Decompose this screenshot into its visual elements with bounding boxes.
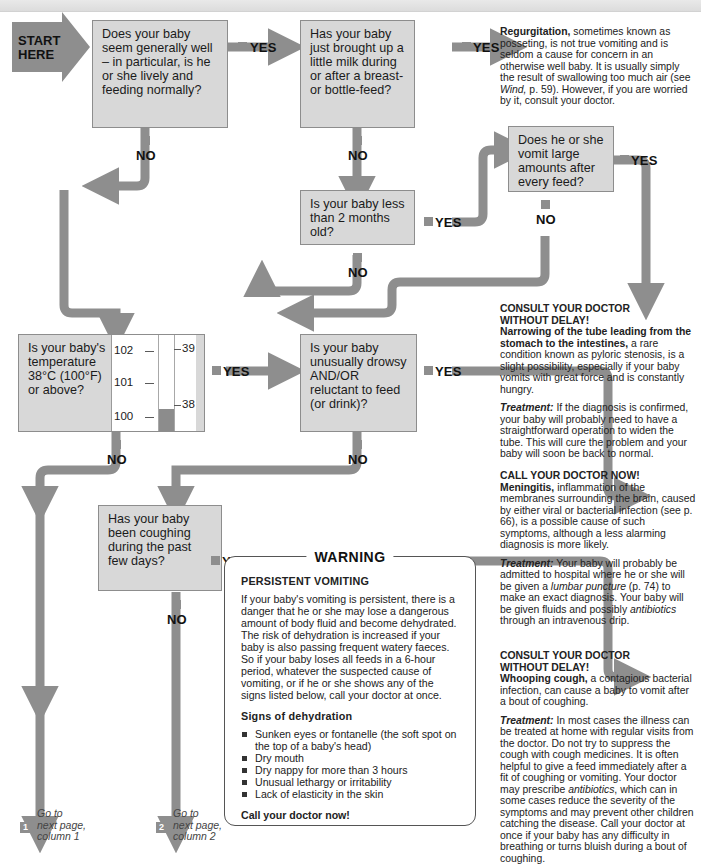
signs-list: Sunken eyes or fontanelle (the soft spot… (241, 728, 461, 800)
goto-next-page-column-2: Go to next page, column 2 (173, 808, 222, 843)
yes-marker-square (620, 155, 629, 164)
list-item: Dry mouth (241, 752, 461, 764)
goto-badge-2: 2 (156, 822, 167, 833)
no-label-q6: NO (348, 452, 368, 467)
list-item: Dry nappy for more than 3 hours (241, 764, 461, 776)
treatment-body-2: , which can in some cases reduce the sev… (500, 784, 693, 864)
yes-label-q5: YES (223, 364, 250, 379)
thermo-f-102: 102 (114, 344, 133, 358)
advice-heading-1: CALL YOUR DOCTOR NOW! (500, 470, 696, 482)
warning-subheading: PERSISTENT VOMITING (241, 575, 461, 587)
question-text: Is your baby's temperature 38°C (100°F) … (28, 341, 105, 397)
treatment-label: Treatment: (500, 402, 554, 413)
no-marker-square (541, 200, 550, 209)
advice-heading-1: CONSULT YOUR DOCTOR (500, 303, 696, 315)
thermometer-mercury (159, 409, 174, 431)
no-marker-square (353, 253, 362, 262)
advice-body-2: p. 59). However, if you are worried by i… (500, 84, 688, 107)
no-label-q2: NO (348, 148, 368, 163)
question-text: Is your baby less than 2 months old? (310, 197, 405, 239)
call-doctor-text: Call your doctor now! (241, 809, 461, 821)
advice-lead: Whooping cough, (500, 673, 588, 684)
advice-regurgitation: Regurgitation, sometimes known as posset… (500, 26, 696, 114)
yes-marker-square (211, 556, 220, 565)
question-box-temperature[interactable]: Is your baby's temperature 38°C (100°F) … (18, 334, 205, 432)
advice-lead: Narrowing of the tube leading from the s… (500, 326, 691, 349)
advice-heading-2: WITHOUT DELAY! (500, 662, 696, 674)
advice-meningitis: CALL YOUR DOCTOR NOW! Meningitis, inflam… (500, 470, 696, 634)
start-here-label: START HERE (18, 34, 60, 62)
advice-italic: Wind, (500, 84, 526, 95)
thermo-c-39: 39 (182, 342, 195, 356)
treatment-italic-1: antibiotics (568, 784, 614, 795)
advice-whooping-cough: CONSULT YOUR DOCTOR WITHOUT DELAY! Whoop… (500, 650, 696, 868)
list-item: Unusual lethargy or irritability (241, 776, 461, 788)
no-marker-square (172, 600, 181, 609)
goto-next-page-column-1: Go to next page, column 1 (37, 808, 86, 843)
warning-panel: WARNING PERSISTENT VOMITING If your baby… (224, 556, 476, 826)
yes-marker-square (424, 217, 433, 226)
goto-badge-1: 1 (20, 822, 31, 833)
question-text: Is your baby unusually drowsy AND/OR rel… (310, 341, 407, 411)
yes-marker-square (212, 366, 221, 375)
no-marker-square (141, 136, 150, 145)
no-label-q7: NO (167, 612, 187, 627)
thermometer-graphic: 102 101 100 39 38 (111, 335, 204, 431)
yes-label-q4: YES (435, 215, 462, 230)
treatment-body-1: In most cases the illness can be treated… (500, 715, 693, 795)
question-box-brought-up-milk[interactable]: Has your baby just brought up a little m… (300, 20, 415, 128)
yes-marker-square (424, 366, 433, 375)
advice-heading-1: CONSULT YOUR DOCTOR (500, 650, 696, 662)
no-label-q3: NO (536, 212, 556, 227)
yes-label-q1: YES (250, 40, 277, 55)
yes-marker-square (238, 42, 247, 51)
no-label-q1: NO (136, 148, 156, 163)
treatment-body-3: through an intravenous drip. (500, 615, 629, 626)
yes-marker-square (462, 42, 471, 51)
treatment-label: Treatment: (500, 558, 554, 569)
thermo-f-100: 100 (114, 410, 133, 424)
thermometer-pad (196, 335, 204, 431)
no-marker-square (353, 440, 362, 449)
question-box-coughing[interactable]: Has your baby been coughing during the p… (98, 505, 222, 591)
question-box-drowsy-reluctant-feed[interactable]: Is your baby unusually drowsy AND/OR rel… (300, 334, 417, 432)
treatment-italic-1: lumbar puncture (551, 581, 626, 592)
thermo-c-38: 38 (182, 398, 195, 412)
no-marker-square (112, 440, 121, 449)
thermo-f-101: 101 (114, 376, 133, 390)
warning-title: WARNING (306, 549, 393, 565)
yes-label-q3: YES (631, 153, 658, 168)
treatment-italic-2: antibiotics (630, 604, 676, 615)
thermometer-tube (158, 335, 175, 431)
list-item: Sunken eyes or fontanelle (the soft spot… (241, 728, 461, 752)
yes-label-q2: YES (473, 40, 500, 55)
advice-lead: Meningitis, (500, 482, 554, 493)
yes-label-q6: YES (435, 364, 462, 379)
advice-lead: Regurgitation, (500, 26, 570, 37)
question-text: Has your baby been coughing during the p… (108, 512, 191, 568)
question-text: Does your baby seem generally well – in … (102, 27, 213, 97)
no-marker-square (353, 136, 362, 145)
no-label-q4: NO (348, 265, 368, 280)
advice-heading-2: WITHOUT DELAY! (500, 315, 696, 327)
signs-heading: Signs of dehydration (241, 710, 461, 722)
question-text: Does he or she vomit large amounts after… (518, 133, 603, 189)
warning-body: If your baby's vomiting is persistent, t… (241, 593, 461, 701)
question-box-general-wellbeing[interactable]: Does your baby seem generally well – in … (92, 20, 228, 128)
treatment-label: Treatment: (500, 715, 554, 726)
list-item: Lack of elasticity in the skin (241, 788, 461, 800)
question-text: Has your baby just brought up a little m… (310, 27, 404, 97)
question-box-less-than-2-months[interactable]: Is your baby less than 2 months old? (300, 190, 415, 245)
advice-pyloric-stenosis: CONSULT YOUR DOCTOR WITHOUT DELAY! Narro… (500, 303, 696, 467)
no-label-q5: NO (107, 452, 127, 467)
question-box-vomit-large-amounts[interactable]: Does he or she vomit large amounts after… (508, 126, 614, 192)
